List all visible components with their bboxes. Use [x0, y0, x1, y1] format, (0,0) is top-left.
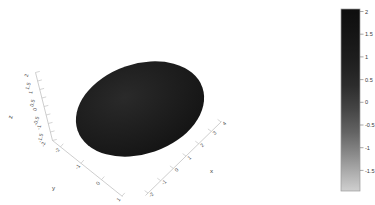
colorbar-tick-label: 0.5	[365, 77, 373, 83]
colorbar-tick-label: 2	[365, 9, 368, 15]
colorbar-tick-label: 1	[365, 54, 368, 60]
figure-canvas: 2 1.5 1 0.5 0 -0.5 -1 -1.5 -2 z	[0, 0, 375, 205]
colorbar-tick-label: -1	[365, 145, 370, 151]
colorbar-gradient	[341, 9, 360, 191]
colorbar-tick-label: -1.5	[365, 168, 375, 174]
colorbar-tick-label: 1.5	[365, 31, 373, 37]
surface-plot-figure: 2 1.5 1 0.5 0 -0.5 -1 -1.5 -2 z	[0, 0, 375, 205]
colorbar-tick-label: 0	[365, 99, 368, 105]
colorbar-tick-label: -0.5	[365, 122, 375, 128]
